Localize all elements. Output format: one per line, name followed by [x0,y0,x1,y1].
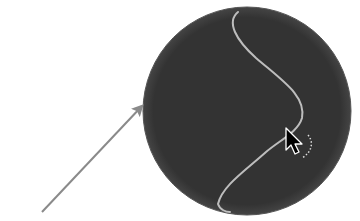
annotation-arrow [42,106,142,212]
figure [0,0,360,221]
figure-canvas [0,0,360,221]
dark-disc [143,7,351,215]
